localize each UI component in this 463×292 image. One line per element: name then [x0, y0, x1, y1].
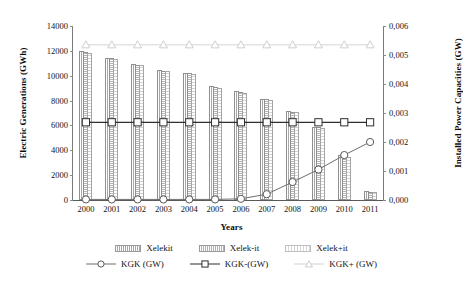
y-axis-left-tick-mark [70, 200, 73, 201]
triangle-marker-icon [159, 41, 167, 48]
legend-item-xelekit[interactable]: Xelekit [115, 243, 173, 253]
triangle-marker-icon [211, 41, 219, 48]
legend-swatch-triangle-marker-icon [294, 259, 324, 269]
circle-marker-icon [211, 196, 218, 203]
y-axis-right-tick-label: 0,001 [389, 166, 408, 176]
y-axis-right-tick-label: 0,004 [389, 79, 408, 89]
y-axis-right-tick-mark [383, 55, 386, 56]
square-marker-icon [366, 119, 373, 126]
chart-container: Electric Generations (GWh) Installed Pow… [0, 0, 463, 292]
circle-marker-icon [186, 196, 193, 203]
circle-marker-icon [263, 191, 270, 198]
x-axis-tick-label: 2005 [207, 204, 224, 214]
circle-marker-icon [108, 196, 115, 203]
square-marker-icon [186, 119, 193, 126]
legend-row-bars: Xelekit Xelek-it Xelek+it [0, 243, 463, 253]
line-series-layer [73, 26, 383, 200]
y-axis-right-tick-label: 0,005 [389, 50, 408, 60]
legend-swatch-circle-marker-icon [86, 259, 116, 269]
triangle-marker-icon [185, 41, 193, 48]
axis-line-bottom [72, 200, 384, 201]
y-axis-right-tick-mark [383, 142, 386, 143]
circle-marker-icon [366, 138, 373, 145]
square-marker-icon [341, 119, 348, 126]
legend-item-xelek-plus-it[interactable]: Xelek+it [285, 243, 348, 253]
triangle-marker-icon [340, 41, 348, 48]
square-marker-icon [108, 119, 115, 126]
legend-label: KGK+ (GW) [329, 259, 377, 269]
legend-swatch-bar-icon [199, 245, 225, 252]
y-axis-right-tick-mark [383, 200, 386, 201]
square-marker-icon [211, 119, 218, 126]
y-axis-right-tick-mark [383, 26, 386, 27]
y-axis-left-tick-label: 6000 [51, 120, 68, 130]
y-axis-left-tick-label: 0 [64, 195, 68, 205]
y-axis-right-tick-label: 0,003 [389, 108, 408, 118]
circle-marker-icon [315, 166, 322, 173]
legend-swatch-bar-icon [115, 245, 141, 252]
legend-row-lines: KGK (GW) KGK-(GW) KGK+ (GW) [0, 259, 463, 269]
legend-label: Xelekit [146, 243, 173, 253]
y-axis-left-tick-label: 2000 [51, 170, 68, 180]
legend-label: Xelek-it [230, 243, 260, 253]
circle-marker-icon [134, 196, 141, 203]
x-axis-tick-label: 2011 [362, 204, 379, 214]
triangle-marker-icon [108, 41, 116, 48]
chart-legend: Xelekit Xelek-it Xelek+it KGK (GW) [0, 243, 463, 275]
y-axis-right-title: Installed Power Capacities (GW) [453, 13, 463, 193]
legend-item-kgk-minus[interactable]: KGK-(GW) [190, 259, 268, 269]
y-axis-right-tick-label: 0,000 [389, 195, 408, 205]
circle-marker-icon [160, 196, 167, 203]
plot-area: 02000400060008000100001200014000 0,0000,… [73, 26, 383, 200]
y-axis-left-tick-label: 14000 [47, 21, 68, 31]
square-marker-icon [160, 119, 167, 126]
y-axis-left-tick-label: 8000 [51, 96, 68, 106]
triangle-marker-icon [237, 41, 245, 48]
triangle-marker-icon [366, 41, 374, 48]
legend-swatch-square-marker-icon [190, 259, 220, 269]
line-path [86, 142, 370, 199]
triangle-marker-icon [289, 41, 297, 48]
x-axis-tick-label: 2008 [284, 204, 301, 214]
x-axis-tick-label: 2000 [77, 204, 94, 214]
legend-item-xelek-it[interactable]: Xelek-it [199, 243, 260, 253]
x-axis-tick-label: 2002 [129, 204, 146, 214]
triangle-marker-icon [82, 41, 90, 48]
legend-item-kgk-plus[interactable]: KGK+ (GW) [294, 259, 377, 269]
legend-item-kgk[interactable]: KGK (GW) [86, 259, 164, 269]
square-marker-icon [263, 119, 270, 126]
x-axis-tick-label: 2004 [181, 204, 198, 214]
y-axis-right-tick-mark [383, 84, 386, 85]
legend-label: Xelek+it [316, 243, 348, 253]
x-axis-tick-label: 2006 [232, 204, 249, 214]
x-axis-tick-label: 2003 [155, 204, 172, 214]
circle-marker-icon [82, 196, 89, 203]
triangle-marker-icon [134, 41, 142, 48]
square-marker-icon [237, 119, 244, 126]
square-marker-icon [134, 119, 141, 126]
circle-marker-icon [289, 178, 296, 185]
y-axis-right-tick-label: 0,002 [389, 137, 408, 147]
y-axis-right-tick-mark [383, 113, 386, 114]
circle-marker-icon [341, 151, 348, 158]
y-axis-left-tick-label: 12000 [47, 46, 68, 56]
y-axis-left-title: Electric Generations (GWh) [18, 18, 28, 188]
y-axis-right-tick-label: 0,006 [389, 21, 408, 31]
square-marker-icon [315, 119, 322, 126]
y-axis-left-tick-label: 10000 [47, 71, 68, 81]
triangle-marker-icon [314, 41, 322, 48]
x-axis-tick-label: 2001 [103, 204, 120, 214]
y-axis-right-tick-mark [383, 171, 386, 172]
triangle-marker-icon [263, 41, 271, 48]
legend-label: KGK-(GW) [225, 259, 268, 269]
x-axis-tick-label: 2010 [336, 204, 353, 214]
legend-swatch-bar-icon [285, 245, 311, 252]
x-axis-title: Years [0, 222, 463, 232]
circle-marker-icon [237, 195, 244, 202]
y-axis-left-tick-label: 4000 [51, 145, 68, 155]
legend-label: KGK (GW) [121, 259, 164, 269]
square-marker-icon [289, 119, 296, 126]
x-axis-tick-label: 2007 [258, 204, 275, 214]
x-axis-tick-label: 2009 [310, 204, 327, 214]
square-marker-icon [82, 119, 89, 126]
